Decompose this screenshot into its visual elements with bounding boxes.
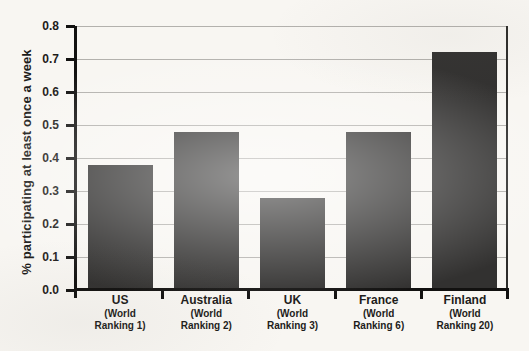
category-label-france: France(World Ranking 6): [335, 293, 423, 332]
category-world-ranking: (World Ranking 1): [89, 308, 151, 332]
bar-uk: [260, 198, 325, 290]
y-tick-label: 0.2: [17, 217, 59, 231]
category-label-us: US(World Ranking 1): [76, 293, 164, 332]
y-tick-label: 0.6: [17, 85, 59, 99]
y-tick: [66, 58, 75, 61]
plot-right-border: [506, 26, 508, 290]
category-world-ranking: (World Ranking 6): [348, 308, 410, 332]
bar-australia: [174, 132, 239, 290]
bar-chart: % participating at least once a week 0.0…: [0, 0, 529, 351]
y-tick-label: 0.0: [17, 283, 59, 297]
category-world-ranking: (World Ranking 3): [262, 308, 324, 332]
y-tick: [66, 190, 75, 193]
gridline: [77, 26, 508, 27]
plot-area: [77, 26, 508, 290]
y-tick: [66, 25, 75, 28]
bar-finland: [432, 52, 497, 290]
y-tick-label: 0.3: [17, 184, 59, 198]
category-name: Australia: [162, 293, 250, 307]
bar-france: [346, 132, 411, 290]
y-tick: [66, 223, 75, 226]
category-name: Finland: [421, 293, 509, 307]
y-tick: [66, 91, 75, 94]
category-world-ranking: (World Ranking 20): [434, 308, 496, 332]
category-name: US: [76, 293, 164, 307]
category-label-australia: Australia(World Ranking 2): [162, 293, 250, 332]
category-label-uk: UK(World Ranking 3): [249, 293, 337, 332]
y-tick-label: 0.1: [17, 250, 59, 264]
y-tick-label: 0.7: [17, 52, 59, 66]
category-world-ranking: (World Ranking 2): [175, 308, 237, 332]
x-axis-line: [74, 288, 509, 291]
y-tick: [66, 124, 75, 127]
y-tick: [66, 157, 75, 160]
category-label-finland: Finland(World Ranking 20): [421, 293, 509, 332]
bar-us: [88, 165, 153, 290]
category-name: UK: [249, 293, 337, 307]
y-tick-label: 0.4: [17, 151, 59, 165]
y-tick-label: 0.8: [17, 19, 59, 33]
y-tick: [66, 289, 75, 292]
y-tick: [66, 256, 75, 259]
category-name: France: [335, 293, 423, 307]
y-tick-label: 0.5: [17, 118, 59, 132]
